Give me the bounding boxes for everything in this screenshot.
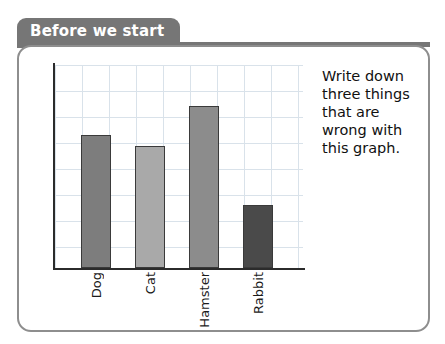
instruction-text: Write down three things that are wrong w… — [322, 67, 426, 157]
top-crop-strip — [0, 0, 445, 14]
bar-dog — [81, 135, 111, 268]
x-tick-label-dog: Dog — [89, 272, 103, 298]
bar-cat — [135, 146, 165, 268]
x-tick-label-cat: Cat — [143, 272, 157, 294]
x-tick-label-hamster: Hamster — [197, 272, 211, 328]
y-axis-line — [53, 63, 55, 270]
x-tick-label-rabbit: Rabbit — [251, 272, 265, 314]
x-axis-tick-labels: DogCatHamsterRabbit — [55, 272, 305, 332]
section-tab-before-we-start[interactable]: Before we start — [17, 18, 180, 48]
bar-rabbit — [243, 205, 273, 268]
content-card: DogCatHamsterRabbit Write down three thi… — [17, 45, 430, 332]
x-axis-line — [53, 268, 305, 270]
section-tab-label: Before we start — [30, 22, 164, 40]
bar-hamster — [189, 106, 219, 268]
bar-chart: DogCatHamsterRabbit — [38, 65, 308, 315]
